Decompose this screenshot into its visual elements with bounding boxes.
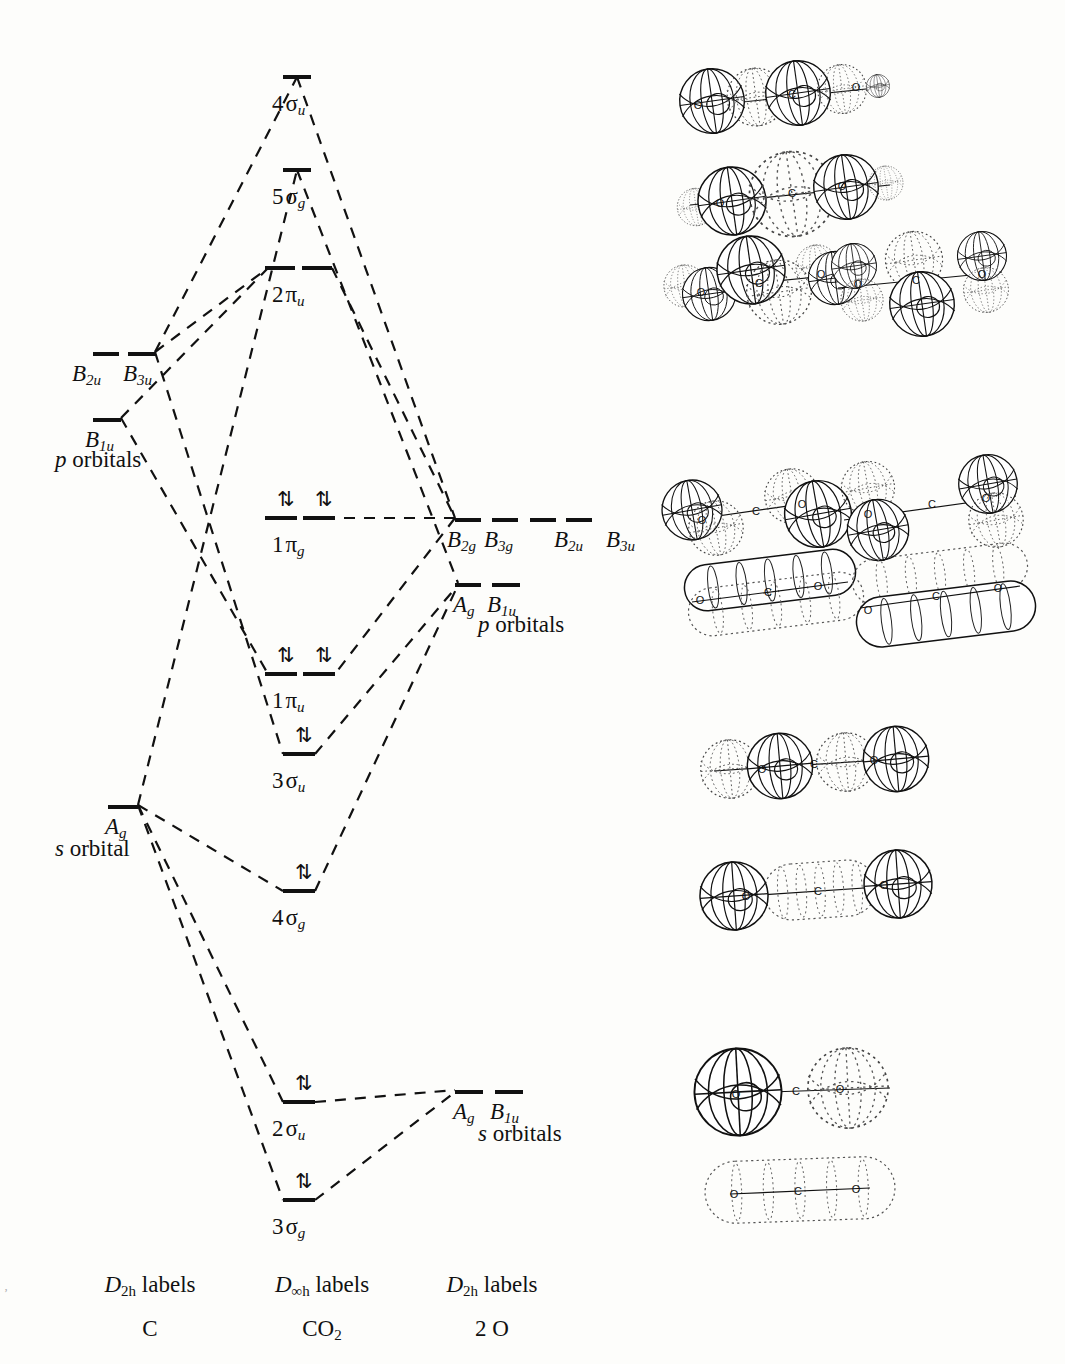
orbital-picture-2pu: OCO: [829, 228, 1012, 341]
left-ao-caption: s orbital: [55, 836, 130, 862]
svg-text:C: C: [794, 1185, 802, 1197]
mo-level-bar-3su: [283, 752, 315, 756]
mo-level-bar-5sg: [283, 168, 311, 172]
mo-level-label-1pg: 1 πg: [272, 533, 305, 559]
svg-text:O: O: [817, 268, 826, 280]
svg-text:O: O: [864, 508, 873, 520]
electron-pair-arrows: ⇅: [315, 489, 332, 510]
mo-level-bar-3sg: [283, 1198, 315, 1202]
orbital-picture-3su: OCO: [698, 724, 931, 802]
right-ao-bar-Ag: [455, 583, 481, 587]
svg-text:O: O: [864, 604, 873, 616]
orbital-picture-1pg: OCO: [837, 450, 1027, 565]
right-ao-bar-Ag: [455, 1090, 483, 1094]
orbital-picture-2pu: OCO: [661, 232, 865, 329]
mo-level-label-5sg: 5 σg: [272, 185, 305, 211]
right-ao-bar-B2g: [455, 518, 481, 522]
svg-text:O: O: [730, 1188, 739, 1200]
electron-pair-arrows: ⇅: [295, 1171, 312, 1192]
left-ao-bar-B3u: [128, 352, 156, 356]
svg-text:O: O: [698, 514, 707, 526]
mo-level-bar-1pg: [303, 516, 335, 520]
mo-level-label-2su: 2 σu: [272, 1117, 305, 1143]
right-ao-label-B3g: B3g: [484, 528, 513, 554]
left-ao-bar-B2u: [93, 352, 119, 356]
orbital-picture-4su: OCO: [676, 57, 892, 138]
svg-text:C: C: [755, 277, 763, 289]
mo-level-bar-4sg: [283, 889, 315, 893]
svg-text:O: O: [758, 763, 767, 775]
svg-text:O: O: [697, 286, 706, 298]
mo-level-bar-1pu: [265, 672, 297, 676]
axis-caption: D2h labels2 O: [382, 1272, 602, 1342]
mo-level-label-3su: 3 σu: [272, 769, 305, 795]
left-ao-caption: p orbitals: [55, 447, 141, 473]
electron-pair-arrows: ⇅: [277, 645, 294, 666]
svg-text:O: O: [838, 180, 847, 192]
svg-text:C: C: [792, 1085, 800, 1097]
electron-pair-arrows: ⇅: [295, 1073, 312, 1094]
right-ao-label-Ag: Ag: [453, 593, 475, 619]
scan-artifact: ʼ: [4, 1286, 8, 1301]
svg-text:O: O: [732, 1088, 741, 1100]
orbital-pictures-layer: OCOOCOOCOOCOOCOOCOOCOOCOOCOOCOOCOOCO: [0, 0, 1065, 1364]
right-ao-bar-B2u: [530, 518, 556, 522]
svg-text:O: O: [798, 498, 807, 510]
svg-text:O: O: [696, 594, 705, 606]
right-ao-label-B2g: B2g: [447, 528, 476, 554]
axis-symmetry-label: D2h labels: [382, 1272, 602, 1300]
electron-pair-arrows: ⇅: [295, 862, 312, 883]
mo-level-bar-1pu: [303, 672, 335, 676]
orbital-picture-1pu: OCO: [682, 547, 866, 639]
svg-text:O: O: [836, 1083, 845, 1095]
orbital-picture-1pg: OCO: [657, 464, 856, 559]
svg-text:O: O: [880, 879, 889, 891]
right-ao-caption: p orbitals: [478, 612, 564, 638]
right-ao-bar-B3u: [566, 518, 592, 522]
mo-level-bar-2su: [283, 1100, 315, 1104]
left-ao-bar-Ag: [108, 805, 138, 809]
svg-text:C: C: [788, 187, 796, 199]
axis-species-label: 2 O: [382, 1316, 602, 1342]
mo-level-bar-4su: [283, 75, 311, 79]
mo-level-bar-1pg: [265, 516, 297, 520]
svg-text:O: O: [870, 754, 879, 766]
left-ao-label-B3u: B3u: [123, 362, 152, 388]
svg-text:O: O: [716, 197, 725, 209]
right-ao-label-Ag: Ag: [453, 1100, 475, 1126]
svg-text:C: C: [912, 274, 920, 286]
mo-level-bar-2pu: [265, 266, 295, 270]
svg-text:C: C: [928, 498, 936, 510]
svg-text:C: C: [814, 885, 822, 897]
electron-pair-arrows: ⇅: [277, 489, 294, 510]
orbital-picture-3sg: OCO: [704, 1156, 896, 1225]
orbital-picture-2su: OCO: [692, 1046, 890, 1138]
electron-pair-arrows: ⇅: [295, 725, 312, 746]
right-ao-caption: s orbitals: [478, 1121, 562, 1147]
right-ao-bar-B1u: [495, 1090, 523, 1094]
svg-text:O: O: [694, 99, 703, 111]
svg-text:C: C: [810, 758, 818, 770]
mo-level-label-4sg: 4 σg: [272, 906, 305, 932]
svg-text:O: O: [814, 580, 823, 592]
left-ao-label-B2u: B2u: [72, 362, 101, 388]
mo-level-bar-2pu: [302, 266, 332, 270]
svg-text:O: O: [994, 582, 1003, 594]
svg-text:C: C: [932, 590, 940, 602]
mo-level-label-2pu: 2 πu: [272, 283, 305, 309]
svg-text:O: O: [852, 81, 861, 93]
mo-level-label-1pu: 1 πu: [272, 689, 305, 715]
svg-text:C: C: [764, 586, 772, 598]
svg-text:O: O: [742, 890, 751, 902]
mo-diagram-page: OCOOCOOCOOCOOCOOCOOCOOCOOCOOCOOCOOCO 4 σ…: [0, 0, 1065, 1364]
svg-text:O: O: [852, 1183, 861, 1195]
right-ao-bar-B1u: [492, 583, 520, 587]
right-ao-label-B2u: B2u: [554, 528, 583, 554]
svg-text:O: O: [978, 268, 987, 280]
svg-text:O: O: [982, 492, 991, 504]
mo-level-label-4su: 4 σu: [272, 92, 305, 118]
left-ao-bar-B1u: [93, 418, 121, 422]
svg-text:C: C: [788, 88, 796, 100]
right-ao-label-B3u: B3u: [606, 528, 635, 554]
orbital-picture-4sg: OCO: [698, 848, 935, 933]
